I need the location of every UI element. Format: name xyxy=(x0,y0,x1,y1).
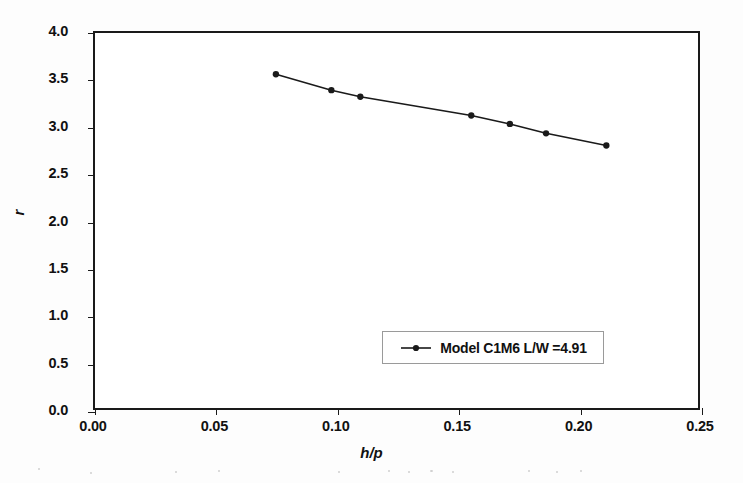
data-point-marker xyxy=(543,130,549,136)
data-point-marker xyxy=(468,112,474,118)
scan-speck xyxy=(528,470,530,472)
data-point-marker xyxy=(357,94,363,100)
x-axis-tick xyxy=(581,408,582,415)
x-axis-tick-label: 0.05 xyxy=(201,418,228,434)
y-axis-tick xyxy=(88,128,95,129)
y-axis-tick-label: 3.0 xyxy=(48,118,68,134)
scan-speck xyxy=(580,470,582,472)
y-axis-tick-labels: 0.00.51.01.52.02.53.03.54.0 xyxy=(0,31,80,410)
x-axis-tick-label: 0.00 xyxy=(79,418,106,434)
scan-speck xyxy=(38,468,40,470)
series-line-model-c1m6 xyxy=(276,74,606,145)
chart-figure: 0.00.51.01.52.02.53.03.54.0 r 0.000.050.… xyxy=(0,0,743,483)
y-axis-tick xyxy=(88,365,95,366)
x-axis-tick-label: 0.20 xyxy=(565,418,592,434)
legend-line-marker-icon xyxy=(399,342,433,354)
x-axis-tick-labels: 0.000.050.100.150.200.25 xyxy=(93,418,700,442)
scan-speck xyxy=(388,470,390,472)
y-axis-tick xyxy=(88,317,95,318)
scan-speck xyxy=(430,470,433,472)
y-axis-title: r xyxy=(10,210,27,216)
y-axis-tick xyxy=(88,412,95,413)
x-axis-tick-label: 0.15 xyxy=(443,418,470,434)
x-axis-tick-label: 0.25 xyxy=(686,418,713,434)
scan-speck xyxy=(408,471,410,473)
scan-speck xyxy=(175,471,177,473)
y-axis-tick-label: 2.5 xyxy=(48,165,68,181)
data-point-marker xyxy=(273,71,279,77)
x-axis-tick xyxy=(216,408,217,415)
scan-speck xyxy=(556,471,558,473)
x-axis-tick xyxy=(95,408,96,415)
scan-speck xyxy=(338,471,340,473)
x-axis-title: h/p xyxy=(0,444,743,461)
y-axis-tick-label: 4.0 xyxy=(48,23,68,39)
y-axis-tick-label: 1.0 xyxy=(48,307,68,323)
x-axis-tick-label: 0.10 xyxy=(322,418,349,434)
scan-speck xyxy=(452,471,454,473)
x-axis-tick xyxy=(702,408,703,415)
y-axis-tick xyxy=(88,33,95,34)
scan-speck xyxy=(218,470,220,472)
y-axis-tick xyxy=(88,223,95,224)
x-axis-tick xyxy=(338,408,339,415)
y-axis-tick xyxy=(88,80,95,81)
legend-label-model-c1m6: Model C1M6 L/W =4.91 xyxy=(440,340,587,356)
y-axis-tick-label: 2.0 xyxy=(48,213,68,229)
y-axis-tick xyxy=(88,175,95,176)
data-point-marker xyxy=(328,87,334,93)
y-axis-tick-label: 0.5 xyxy=(48,355,68,371)
x-axis-tick xyxy=(459,408,460,415)
y-axis-tick xyxy=(88,270,95,271)
data-point-marker xyxy=(507,121,513,127)
chart-legend: Model C1M6 L/W =4.91 xyxy=(382,331,604,364)
scan-speck xyxy=(90,472,92,474)
y-axis-tick-label: 0.0 xyxy=(48,402,68,418)
y-axis-tick-label: 3.5 xyxy=(48,70,68,86)
data-point-marker xyxy=(603,142,609,148)
y-axis-tick-label: 1.5 xyxy=(48,260,68,276)
